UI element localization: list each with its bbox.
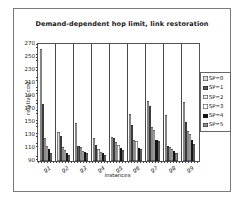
y-tick-label: 250 <box>19 54 35 60</box>
bar-group <box>181 44 199 161</box>
legend-swatch <box>203 114 208 119</box>
legend-entry: SP=5 <box>201 120 230 129</box>
bar-group <box>163 44 181 161</box>
bar <box>175 153 177 161</box>
legend-swatch <box>203 123 208 128</box>
legend-label: SP=5 <box>209 122 223 127</box>
bar-group <box>127 44 145 161</box>
bar <box>86 153 88 161</box>
legend: SP=0SP=1SP=2SP=3SP=4SP=5 <box>200 72 231 132</box>
legend-swatch <box>203 76 208 81</box>
bar-group <box>92 44 110 161</box>
y-tick-label: 230 <box>19 67 35 73</box>
legend-label: SP=4 <box>209 113 223 118</box>
legend-label: SP=1 <box>209 85 223 90</box>
y-tick-label: 190 <box>19 93 35 99</box>
bar <box>122 150 124 161</box>
bar <box>140 149 142 161</box>
bar-group <box>56 44 74 161</box>
y-tick-label: 110 <box>19 145 35 151</box>
y-tick-label: 130 <box>19 132 35 138</box>
y-tick-label: 150 <box>19 119 35 125</box>
legend-swatch <box>203 86 208 91</box>
legend-label: SP=0 <box>209 76 223 81</box>
bar-group <box>38 44 56 161</box>
y-tick-label: 170 <box>19 106 35 112</box>
plot-area: 90110130150170190210230250270g1g2g3g4g5g… <box>37 43 200 162</box>
legend-entry: SP=2 <box>201 93 230 102</box>
legend-swatch <box>203 104 208 109</box>
bar-group <box>74 44 92 161</box>
bar-group <box>145 44 163 161</box>
x-axis-title: instances <box>37 172 198 178</box>
figure-frame: Demand-dependent hop limit, link restora… <box>13 8 231 192</box>
x-axis-minor-ticks <box>38 161 199 163</box>
chart-title: Demand-dependent hop limit, link restora… <box>14 20 230 28</box>
bar <box>104 155 106 162</box>
legend-entry: SP=4 <box>201 111 230 120</box>
legend-label: SP=3 <box>209 104 223 109</box>
y-tick-label: 210 <box>19 80 35 86</box>
legend-entry: SP=3 <box>201 102 230 111</box>
bar <box>158 141 160 161</box>
legend-label: SP=2 <box>209 95 223 100</box>
y-tick-label: 270 <box>19 41 35 47</box>
bar <box>50 153 52 161</box>
bar-group <box>110 44 128 161</box>
bar <box>68 155 70 161</box>
legend-entry: SP=1 <box>201 83 230 92</box>
legend-swatch <box>203 95 208 100</box>
y-tick-label: 90 <box>19 158 35 164</box>
legend-entry: SP=0 <box>201 74 230 83</box>
bar <box>193 144 195 161</box>
